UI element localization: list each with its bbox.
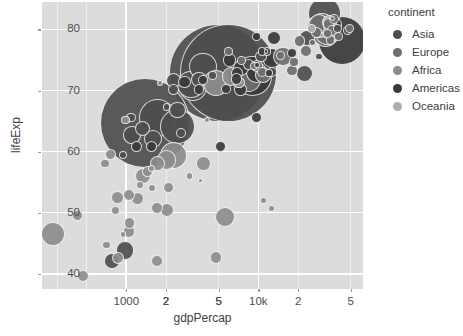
legend-item-label: Oceania bbox=[412, 100, 455, 112]
x-axis-tick-label: 2 bbox=[163, 296, 169, 308]
data-point-bubble bbox=[315, 53, 323, 61]
data-point-bubble bbox=[260, 197, 267, 204]
data-point-bubble bbox=[231, 73, 242, 84]
data-point-bubble bbox=[194, 84, 205, 95]
gridline-horizontal-major bbox=[42, 273, 363, 275]
data-point-bubble bbox=[120, 231, 127, 238]
data-point-bubble bbox=[112, 252, 125, 265]
data-point-bubble bbox=[334, 32, 343, 41]
data-point-bubble bbox=[146, 141, 157, 152]
data-point-bubble bbox=[267, 31, 281, 45]
legend-item-label: Europe bbox=[412, 46, 449, 58]
data-point-bubble bbox=[176, 128, 186, 138]
x-axis-tick-label: 1000 bbox=[113, 296, 139, 308]
legend-dot-icon bbox=[393, 102, 402, 111]
data-point-bubble bbox=[198, 178, 203, 183]
scatter-plot: 4050607080 2510002510k25 gdpPercap lifeE… bbox=[0, 0, 463, 336]
data-point-bubble bbox=[151, 255, 163, 267]
data-point-bubble bbox=[204, 117, 210, 123]
data-point-bubble bbox=[307, 24, 316, 33]
x-axis-tick-mark bbox=[126, 289, 127, 292]
y-axis-tick-label: 70 bbox=[67, 85, 80, 97]
data-point-bubble bbox=[215, 141, 226, 152]
data-point-bubble bbox=[215, 207, 235, 227]
data-point-bubble bbox=[309, 39, 316, 46]
legend: continent AsiaEuropeAfricaAmericasOceani… bbox=[388, 6, 463, 115]
y-axis-tick-label: 80 bbox=[67, 23, 80, 35]
data-point-bubble bbox=[119, 151, 127, 159]
legend-dot-icon bbox=[393, 48, 402, 57]
data-point-bubble bbox=[268, 205, 275, 212]
data-point-bubble bbox=[208, 71, 217, 80]
data-point-bubble bbox=[251, 112, 262, 123]
legend-item-africa[interactable]: Africa bbox=[388, 61, 463, 79]
data-point-bubble bbox=[289, 57, 298, 66]
legend-item-label: Africa bbox=[412, 64, 441, 76]
legend-key bbox=[388, 102, 406, 111]
legend-item-europe[interactable]: Europe bbox=[388, 43, 463, 61]
data-point-bubble bbox=[178, 76, 191, 89]
gridline-vertical-minor bbox=[86, 2, 87, 289]
data-point-bubble bbox=[111, 206, 120, 215]
x-axis-tick-mark bbox=[258, 289, 259, 292]
data-point-bubble bbox=[210, 251, 223, 264]
x-axis-tick-label: 5 bbox=[215, 296, 221, 308]
legend-item-americas[interactable]: Americas bbox=[388, 79, 463, 97]
data-point-bubble bbox=[163, 103, 170, 110]
y-axis-tick-mark bbox=[38, 152, 41, 153]
y-axis-tick-mark bbox=[38, 274, 41, 275]
data-point-bubble bbox=[224, 47, 232, 55]
data-point-bubble bbox=[123, 189, 135, 201]
x-axis-tick-mark bbox=[298, 289, 299, 292]
data-point-bubble bbox=[330, 16, 335, 21]
data-point-bubble bbox=[198, 75, 208, 85]
data-point-bubble bbox=[252, 32, 261, 41]
legend-key bbox=[388, 48, 406, 57]
legend-item-asia[interactable]: Asia bbox=[388, 25, 463, 43]
legend-item-label: Asia bbox=[412, 28, 434, 40]
x-axis-tick-label: 10k bbox=[249, 296, 268, 308]
data-point-bubble bbox=[296, 65, 313, 82]
x-axis-tick-mark bbox=[166, 289, 167, 292]
x-axis-title: gdpPercap bbox=[42, 311, 363, 325]
data-point-bubble bbox=[131, 141, 142, 152]
data-point-bubble bbox=[42, 222, 65, 246]
y-axis-tick-label: 40 bbox=[67, 268, 80, 280]
legend-key bbox=[388, 30, 406, 39]
data-point-bubble bbox=[121, 116, 129, 124]
y-axis-tick-mark bbox=[38, 29, 41, 30]
legend-title: continent bbox=[388, 6, 463, 18]
data-point-bubble bbox=[186, 172, 193, 179]
gridline-horizontal-major bbox=[42, 151, 363, 153]
legend-items: AsiaEuropeAfricaAmericasOceania bbox=[388, 25, 463, 115]
data-point-bubble bbox=[136, 181, 145, 190]
data-point-bubble bbox=[169, 102, 185, 118]
legend-dot-icon bbox=[393, 84, 402, 93]
legend-dot-icon bbox=[393, 66, 402, 75]
data-point-bubble bbox=[163, 182, 174, 193]
legend-item-oceania[interactable]: Oceania bbox=[388, 97, 463, 115]
y-axis-tick-mark bbox=[38, 91, 41, 92]
data-point-bubble bbox=[100, 159, 109, 168]
data-point-bubble bbox=[148, 184, 156, 192]
data-point-bubble bbox=[124, 217, 136, 229]
data-point-bubble bbox=[168, 84, 179, 95]
y-axis-tick-label: 60 bbox=[67, 146, 80, 158]
data-point-bubble bbox=[264, 49, 269, 54]
data-point-bubble bbox=[287, 48, 297, 58]
data-point-bubble bbox=[102, 241, 111, 250]
y-axis-title: lifeExp bbox=[9, 95, 23, 175]
data-point-bubble bbox=[237, 56, 246, 65]
data-point-bubble bbox=[135, 121, 150, 136]
legend-item-label: Americas bbox=[412, 82, 460, 94]
legend-dot-icon bbox=[393, 30, 402, 39]
data-point-bubble bbox=[276, 51, 285, 60]
gridline-vertical-minor bbox=[57, 2, 58, 289]
legend-key bbox=[388, 84, 406, 93]
x-axis-tick-label: 5 bbox=[347, 296, 353, 308]
y-axis-tick-label: 50 bbox=[67, 207, 80, 219]
x-axis-tick-mark bbox=[351, 289, 352, 292]
data-point-bubble bbox=[148, 165, 155, 172]
data-point-bubble bbox=[196, 156, 211, 171]
legend-key bbox=[388, 66, 406, 75]
